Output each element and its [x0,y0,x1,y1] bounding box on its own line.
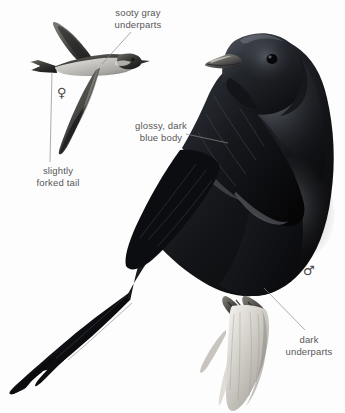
perched-bird-eye-highlight [268,56,271,59]
perched-bird-head-gloss [238,36,294,88]
perch-branch-splinter-left [200,330,226,373]
male-symbol: ♂ [303,264,315,277]
leader-dark-under [264,288,305,330]
perched-bird-eye [267,54,278,64]
flying-bird-near-wing-primaries [60,105,86,154]
bird-illustration-artwork [0,0,345,413]
perched-bird-tail-upper-tip [11,350,62,394]
flying-female-martin-figure [30,22,150,154]
flying-bird-eye [132,58,135,61]
field-guide-plate: sooty gray underparts glossy, dark blue … [0,0,345,413]
female-symbol: ♀ [57,86,67,99]
perched-bird-tail-lower-tip [35,335,88,386]
flying-bird-bill [140,60,150,64]
leader-forked-tail [50,72,52,162]
